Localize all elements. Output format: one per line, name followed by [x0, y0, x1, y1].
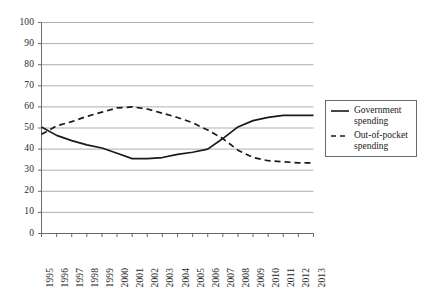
y-axis-tick-label: 100 — [8, 18, 34, 28]
x-axis-tick-label: 1995 — [46, 268, 56, 287]
solid-line-key — [330, 105, 350, 116]
series-line-1 — [42, 115, 314, 158]
x-axis-tick-label: 1996 — [61, 268, 71, 287]
y-axis-tick-label: 20 — [8, 186, 34, 196]
legend-item-out-of-pocket: Out-of-pocket spending — [330, 130, 413, 152]
x-axis-tick-label: 2002 — [151, 268, 161, 287]
x-axis-tick-label: 1998 — [91, 268, 101, 287]
y-axis-tick-label: 0 — [8, 229, 34, 239]
x-axis-tick-label: 2001 — [136, 268, 146, 287]
x-axis-tick-label: 2011 — [287, 268, 297, 287]
y-axis-tick-label: 90 — [8, 39, 34, 49]
x-axis-tick-label: 2013 — [318, 268, 328, 287]
legend-item-government: Government spending — [330, 105, 413, 127]
x-axis-tick-label: 2009 — [257, 268, 267, 287]
x-axis-tick-label: 2012 — [302, 268, 312, 287]
y-axis-tick-label: 60 — [8, 102, 34, 112]
legend-label-government-line1: Government — [354, 105, 402, 115]
x-axis-tick-label: 2007 — [227, 268, 237, 287]
legend-label-out-of-pocket-line2: spending — [354, 141, 388, 151]
y-axis-tick-label: 70 — [8, 81, 34, 91]
x-axis-tick-label: 2005 — [197, 268, 207, 287]
y-axis-tick-label: 50 — [8, 123, 34, 133]
y-axis-tick-label: 10 — [8, 207, 34, 217]
y-axis-tick-label: 80 — [8, 60, 34, 70]
x-axis-tick-label: 2006 — [212, 268, 222, 287]
chart-legend: Government spending Out-of-pocket spendi… — [325, 100, 417, 157]
legend-label-government: Government spending — [354, 105, 402, 127]
y-axis-tick-label: 30 — [8, 165, 34, 175]
legend-label-government-line2: spending — [354, 116, 388, 126]
legend-label-out-of-pocket-line1: Out-of-pocket — [354, 130, 408, 140]
x-axis-tick-label: 1999 — [106, 268, 116, 287]
dashed-line-key — [330, 130, 350, 141]
legend-label-out-of-pocket: Out-of-pocket spending — [354, 130, 408, 152]
x-axis-tick-label: 1997 — [76, 268, 86, 287]
y-axis-tick-label: 40 — [8, 144, 34, 154]
x-axis-tick-label: 2008 — [242, 268, 252, 287]
x-axis-tick-label: 2000 — [121, 268, 131, 287]
x-axis-tick-label: 2004 — [182, 268, 192, 287]
x-axis-tick-label: 2003 — [166, 268, 176, 287]
x-axis-tick-label: 2010 — [272, 268, 282, 287]
